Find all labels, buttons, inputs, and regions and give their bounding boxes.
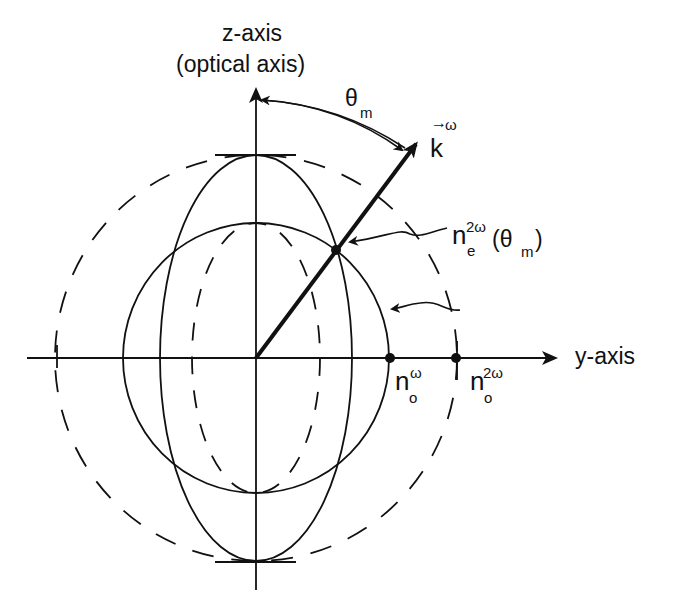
z-axis-label: z-axis [222, 22, 282, 45]
ne-subscript: e [467, 243, 475, 258]
k-symbol: k [430, 135, 443, 161]
no-omega-dot [385, 353, 395, 363]
y-axis-label: y-axis [575, 345, 635, 368]
ne-intersection-dot [331, 245, 341, 255]
ne-argument-sub: m [521, 244, 534, 259]
diagram-canvas [0, 0, 675, 591]
z-axis-sublabel: (optical axis) [176, 53, 305, 76]
theta-symbol: θ [345, 87, 358, 110]
theta-arc [262, 100, 405, 148]
ne-symbol: n [452, 222, 466, 248]
ne-argument-close: ) [535, 228, 543, 251]
ne-superscript: 2ω [466, 219, 486, 234]
no-omega-subscript: o [409, 390, 417, 405]
index-ellipsoid-diagram: z-axis (optical axis) y-axis θ m k → ω n… [0, 0, 675, 591]
theta-subscript: m [360, 105, 373, 120]
no-omega-superscript: ω [410, 365, 422, 380]
k-superscript: ω [445, 117, 457, 132]
ne-argument-open: (θ [492, 228, 512, 251]
no-omega-symbol: n [395, 368, 409, 394]
no-2omega-subscript: o [484, 390, 492, 405]
no-2omega-superscript: 2ω [483, 365, 503, 380]
no-2omega-dot [451, 353, 461, 363]
ne-pointer [350, 228, 447, 242]
